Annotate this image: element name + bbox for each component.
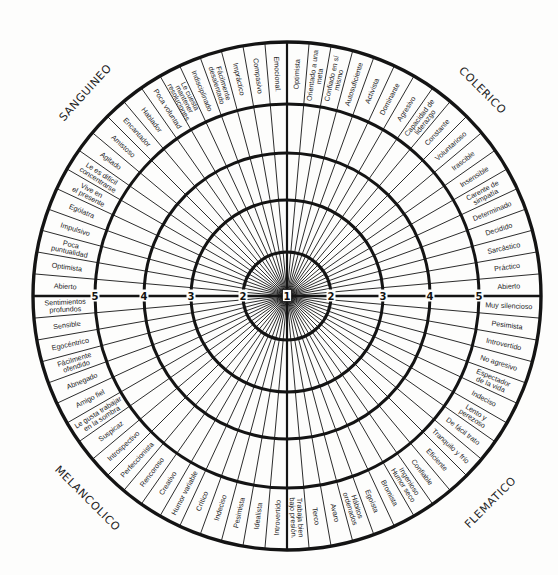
trait-segment: Fácilmenteofendido bbox=[56, 350, 94, 376]
trait-label: Abierto bbox=[54, 281, 77, 291]
trait-segment: Pesimista bbox=[231, 497, 247, 529]
trait-segment: Amistoso bbox=[109, 133, 137, 160]
trait-label: Indeciso bbox=[212, 494, 229, 522]
scale-marker-3: 3 bbox=[187, 290, 196, 302]
trait-label: Optimista bbox=[292, 59, 302, 90]
quadrant-label-flematico: FLEMATICO bbox=[462, 474, 519, 531]
scale-number: 2 bbox=[328, 291, 335, 302]
scale-marker-4: 4 bbox=[140, 290, 149, 302]
trait-label: meta bbox=[314, 68, 325, 85]
trait-label: profundos bbox=[49, 304, 82, 314]
trait-label: Irascible bbox=[450, 149, 477, 172]
trait-label: Pesimista bbox=[231, 497, 247, 529]
trait-segment: Hablador bbox=[139, 106, 164, 135]
trait-segment: Introvertido bbox=[485, 336, 522, 353]
trait-segment: Idealista bbox=[252, 502, 264, 530]
trait-segment: Confiado en símismo bbox=[322, 55, 348, 104]
trait-segment: Muy silencioso bbox=[485, 300, 532, 311]
trait-label: Dominante bbox=[377, 82, 401, 117]
trait-label: Terco bbox=[310, 507, 321, 526]
trait-label: Optimista bbox=[51, 261, 82, 274]
trait-label: Introvertido bbox=[485, 336, 522, 353]
trait-label: Idealista bbox=[252, 502, 264, 530]
trait-label: Introvertido bbox=[272, 500, 283, 536]
trait-label: Sarcástico bbox=[486, 240, 521, 256]
trait-label: Abierto bbox=[497, 281, 520, 291]
trait-segment: Abierto bbox=[54, 281, 77, 291]
scale-marker-3: 3 bbox=[379, 290, 388, 302]
trait-segment: Abierto bbox=[497, 281, 520, 291]
temperament-wheel: Emocional.CompasivoImprácticoFácilmented… bbox=[0, 0, 558, 575]
scale-number: 2 bbox=[240, 291, 247, 302]
scale-marker-2: 2 bbox=[327, 290, 336, 302]
trait-label: Decidido bbox=[484, 221, 513, 238]
trait-segment: Dominante bbox=[377, 82, 401, 117]
spoke bbox=[160, 300, 285, 516]
trait-segment: Pesimista bbox=[491, 318, 523, 331]
spoke bbox=[67, 169, 283, 294]
scale-marker-4: 4 bbox=[426, 290, 435, 302]
quadrant-label-colerico: COLERICO bbox=[456, 64, 509, 117]
scale-number: 3 bbox=[380, 291, 387, 302]
spoke bbox=[67, 299, 283, 424]
trait-segment: Avaro bbox=[329, 503, 342, 523]
scale-number: 1 bbox=[284, 291, 291, 302]
spoke bbox=[291, 299, 507, 424]
scale-marker-2: 2 bbox=[239, 290, 248, 302]
scale-number: 4 bbox=[141, 291, 148, 302]
trait-label: Crítico bbox=[194, 490, 210, 513]
trait-label: Práctico bbox=[494, 261, 521, 273]
trait-label: bajo presión. bbox=[288, 497, 299, 539]
scale-marker-1: 1 bbox=[283, 290, 292, 302]
trait-segment: Eficiente bbox=[424, 446, 449, 472]
scale-number: 5 bbox=[92, 291, 99, 302]
trait-segment: Optimista bbox=[292, 59, 302, 90]
trait-segment: Trabaja bienbajo presión. bbox=[288, 497, 306, 539]
trait-segment: Introvertido bbox=[272, 500, 283, 536]
trait-label: Impráctico bbox=[231, 62, 247, 96]
trait-segment: Indeciso bbox=[212, 494, 229, 522]
scale-marker-5: 5 bbox=[475, 290, 484, 302]
trait-label: Sensible bbox=[53, 319, 82, 332]
scale-marker-5: 5 bbox=[91, 290, 100, 302]
trait-segment: Crítico bbox=[194, 490, 210, 513]
trait-segment: Terco bbox=[310, 507, 321, 526]
trait-label: Autosuficiente bbox=[343, 61, 365, 107]
trait-segment: Abnegado bbox=[65, 371, 99, 392]
trait-label: Amistoso bbox=[109, 133, 137, 160]
trait-label: Abnegado bbox=[65, 371, 99, 392]
trait-label: Hablador bbox=[139, 106, 164, 135]
trait-segment: Hábitosordenados bbox=[341, 489, 367, 527]
trait-segment: Autosuficiente bbox=[343, 61, 365, 107]
trait-segment: Impráctico bbox=[231, 62, 247, 96]
trait-segment: Irascible bbox=[450, 149, 477, 172]
scale-number: 4 bbox=[427, 291, 434, 302]
scale-number: 3 bbox=[188, 291, 195, 302]
trait-segment: Pocapuntualidad bbox=[50, 236, 90, 260]
quadrant-label-sanguineo: SANGUINEO bbox=[56, 62, 114, 124]
trait-segment: Práctico bbox=[494, 261, 521, 273]
spoke bbox=[291, 169, 507, 294]
trait-label: Compasivo bbox=[251, 57, 265, 94]
trait-segment: Sarcástico bbox=[486, 240, 521, 256]
spoke bbox=[290, 76, 415, 292]
trait-label: Pesimista bbox=[491, 318, 523, 331]
trait-label: Emocional. bbox=[272, 56, 283, 92]
trait-segment: Compasivo bbox=[251, 57, 265, 94]
trait-label: Muy silencioso bbox=[485, 300, 532, 311]
trait-segment: Sentimientosprofundos bbox=[44, 297, 87, 315]
trait-segment: Sensible bbox=[53, 319, 82, 332]
trait-segment: Emocional. bbox=[272, 56, 283, 92]
spoke bbox=[290, 300, 415, 516]
trait-segment: Decidido bbox=[484, 221, 513, 238]
trait-segment: Optimista bbox=[51, 261, 82, 274]
trait-label: Creativo bbox=[157, 470, 179, 497]
scale-number: 5 bbox=[476, 291, 483, 302]
quadrant-label-melancolico: MELANCOLICO bbox=[52, 463, 123, 534]
trait-segment: Creativo bbox=[157, 470, 179, 497]
trait-label: Avaro bbox=[329, 503, 342, 523]
trait-label: Eficiente bbox=[424, 446, 449, 472]
